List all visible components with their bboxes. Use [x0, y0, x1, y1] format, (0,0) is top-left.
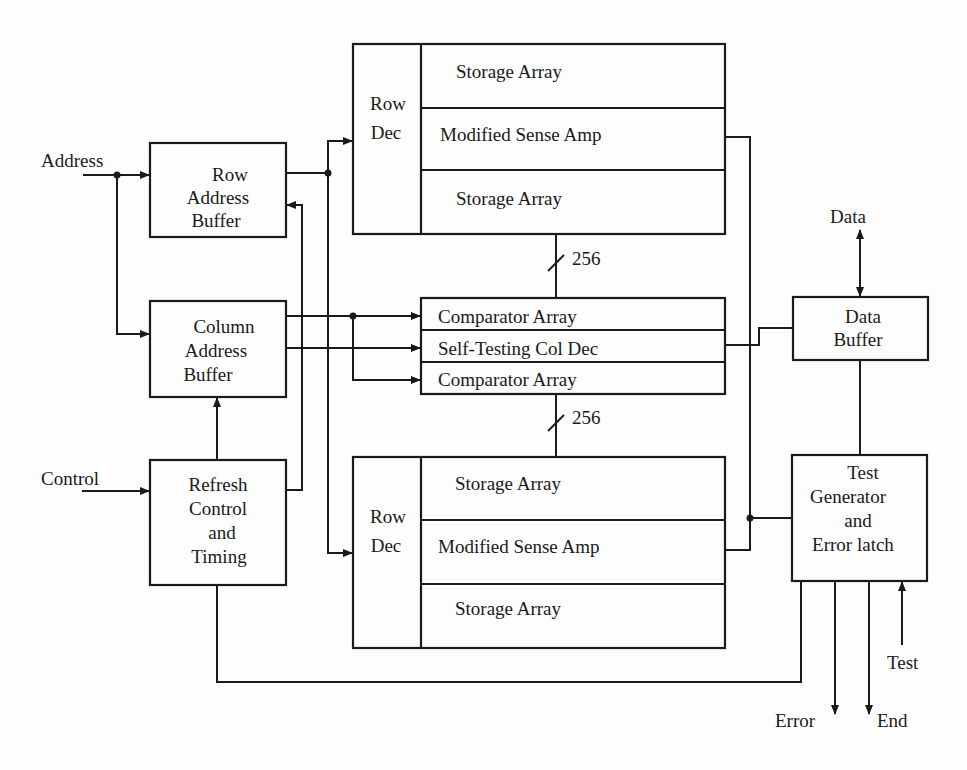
test-generator-error-latch-block: Test Generator and Error latch	[792, 455, 927, 581]
refresh-label-1: Refresh	[188, 474, 248, 495]
bottom-memory-block: Row Dec Storage Array Modified Sense Amp…	[353, 457, 725, 648]
refresh-label-3: and	[208, 522, 236, 543]
test-gen-label-4: Error latch	[812, 534, 894, 555]
row-address-buffer-label-2: Address	[187, 187, 249, 208]
row-address-buffer-label-1: Row	[212, 164, 248, 185]
error-output-label: Error	[775, 710, 816, 731]
top-row-dec-label-2: Dec	[371, 122, 402, 143]
test-gen-label-1: Test	[847, 462, 879, 483]
row-addr-to-bottom-rowdec-arrow	[328, 173, 352, 553]
top-storage-array-1: Storage Array	[456, 61, 563, 82]
bottom-storage-array-2: Storage Array	[455, 598, 562, 619]
coldec-to-data-buffer	[725, 328, 793, 345]
self-testing-col-dec: Self-Testing Col Dec	[438, 338, 598, 359]
refresh-label-4: Timing	[191, 546, 247, 567]
row-address-buffer-block: Row Address Buffer	[150, 143, 286, 237]
address-to-col-buffer-arrow	[117, 175, 149, 334]
row-addr-to-top-rowdec-arrow	[328, 141, 352, 173]
data-buffer-label-2: Buffer	[833, 329, 883, 350]
test-input-label: Test	[887, 652, 919, 673]
top-memory-block: Row Dec Storage Array Modified Sense Amp…	[353, 44, 725, 234]
column-address-buffer-label-2: Address	[185, 340, 247, 361]
column-address-buffer-label-3: Buffer	[183, 364, 233, 385]
upper-bus-width-label: 256	[572, 248, 601, 269]
test-gen-label-2: Generator	[810, 486, 887, 507]
column-address-buffer-block: Column Address Buffer	[150, 301, 286, 397]
top-row-dec-label-1: Row	[370, 93, 406, 114]
row-address-buffer-label-3: Buffer	[191, 210, 241, 231]
top-storage-array-2: Storage Array	[456, 188, 563, 209]
lower-bus-width-label: 256	[572, 407, 601, 428]
test-gen-to-refresh-feedback	[217, 581, 801, 682]
top-modified-sense-amp: Modified Sense Amp	[440, 124, 602, 145]
bottom-storage-array-1: Storage Array	[455, 473, 562, 494]
refresh-label-2: Control	[189, 498, 247, 519]
test-gen-label-3: and	[844, 510, 872, 531]
end-output-label: End	[877, 710, 908, 731]
data-io-label: Data	[830, 206, 866, 227]
data-buffer-label-1: Data	[845, 306, 881, 327]
refresh-control-timing-block: Refresh Control and Timing	[150, 460, 286, 585]
control-input-label: Control	[41, 468, 99, 489]
address-junction-dot	[114, 172, 121, 179]
comparator-coldec-block: Comparator Array Self-Testing Col Dec Co…	[421, 298, 725, 394]
data-buffer-block: Data Buffer	[793, 297, 928, 360]
memory-self-test-block-diagram: Row Address Buffer Column Address Buffer…	[0, 0, 967, 770]
comparator-array-upper: Comparator Array	[438, 306, 577, 327]
bottom-row-dec-label-2: Dec	[371, 535, 402, 556]
bottom-modified-sense-amp: Modified Sense Amp	[438, 536, 600, 557]
address-input-label: Address	[41, 150, 103, 171]
column-address-buffer-label-1: Column	[193, 316, 255, 337]
comparator-array-lower: Comparator Array	[438, 369, 577, 390]
bottom-row-dec-label-1: Row	[370, 506, 406, 527]
